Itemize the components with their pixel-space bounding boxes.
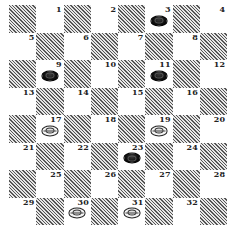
- dark-square: [9, 60, 36, 88]
- square-number: 7: [138, 33, 144, 42]
- square-number: 20: [214, 115, 225, 124]
- square-number: 17: [50, 115, 61, 124]
- dark-square: [9, 5, 36, 33]
- dark-square: [145, 143, 172, 171]
- dark-square: [36, 88, 63, 116]
- square-14[interactable]: 14: [64, 88, 91, 116]
- square-number: 21: [23, 143, 34, 152]
- dark-square: [173, 170, 200, 198]
- square-16[interactable]: 16: [173, 88, 200, 116]
- white-piece[interactable]: [41, 125, 58, 136]
- square-number: 10: [105, 60, 116, 69]
- dark-square: [173, 60, 200, 88]
- square-number: 3: [165, 5, 171, 14]
- square-number: 24: [187, 143, 198, 152]
- square-4[interactable]: 4: [200, 5, 227, 33]
- square-27[interactable]: 27: [145, 170, 172, 198]
- dark-square: [145, 88, 172, 116]
- dark-square: [200, 88, 227, 116]
- dark-square: [64, 170, 91, 198]
- dark-square: [91, 143, 118, 171]
- square-number: 22: [78, 143, 89, 152]
- square-30[interactable]: 30: [64, 198, 91, 226]
- square-number: 9: [56, 60, 62, 69]
- square-10[interactable]: 10: [91, 60, 118, 88]
- dark-square: [9, 170, 36, 198]
- square-number: 13: [23, 88, 34, 97]
- square-31[interactable]: 31: [118, 198, 145, 226]
- square-number: 27: [159, 170, 170, 179]
- square-number: 14: [78, 88, 89, 97]
- dark-square: [118, 60, 145, 88]
- square-number: 12: [214, 60, 225, 69]
- square-number: 28: [214, 170, 225, 179]
- square-9[interactable]: 9: [36, 60, 63, 88]
- dark-square: [173, 115, 200, 143]
- dark-square: [36, 143, 63, 171]
- dark-square: [91, 88, 118, 116]
- square-number: 25: [50, 170, 61, 179]
- square-32[interactable]: 32: [173, 198, 200, 226]
- square-number: 23: [132, 143, 143, 152]
- black-piece[interactable]: [150, 70, 167, 81]
- square-number: 32: [187, 198, 198, 207]
- square-12[interactable]: 12: [200, 60, 227, 88]
- square-25[interactable]: 25: [36, 170, 63, 198]
- square-number: 2: [110, 5, 116, 14]
- square-28[interactable]: 28: [200, 170, 227, 198]
- square-18[interactable]: 18: [91, 115, 118, 143]
- square-23[interactable]: 23: [118, 143, 145, 171]
- square-number: 4: [219, 5, 225, 14]
- square-number: 8: [192, 33, 198, 42]
- square-number: 26: [105, 170, 116, 179]
- dark-square: [200, 33, 227, 61]
- square-26[interactable]: 26: [91, 170, 118, 198]
- square-8[interactable]: 8: [173, 33, 200, 61]
- square-5[interactable]: 5: [9, 33, 36, 61]
- square-number: 29: [23, 198, 34, 207]
- black-piece[interactable]: [41, 70, 58, 81]
- dark-square: [64, 60, 91, 88]
- dark-square: [118, 5, 145, 33]
- dark-square: [91, 33, 118, 61]
- dark-square: [64, 5, 91, 33]
- square-20[interactable]: 20: [200, 115, 227, 143]
- square-19[interactable]: 19: [145, 115, 172, 143]
- square-22[interactable]: 22: [64, 143, 91, 171]
- square-21[interactable]: 21: [9, 143, 36, 171]
- dark-square: [118, 170, 145, 198]
- square-17[interactable]: 17: [36, 115, 63, 143]
- square-6[interactable]: 6: [64, 33, 91, 61]
- dark-square: [36, 198, 63, 226]
- dark-square: [145, 198, 172, 226]
- square-number: 15: [132, 88, 143, 97]
- square-number: 31: [132, 198, 143, 207]
- dark-square: [145, 33, 172, 61]
- square-29[interactable]: 29: [9, 198, 36, 226]
- black-piece[interactable]: [150, 15, 167, 26]
- square-number: 1: [56, 5, 62, 14]
- dark-square: [36, 33, 63, 61]
- square-13[interactable]: 13: [9, 88, 36, 116]
- square-number: 19: [159, 115, 170, 124]
- square-7[interactable]: 7: [118, 33, 145, 61]
- square-3[interactable]: 3: [145, 5, 172, 33]
- square-11[interactable]: 11: [145, 60, 172, 88]
- white-piece[interactable]: [123, 208, 140, 219]
- checkers-board: 1234567891011121314151617181920212223242…: [9, 5, 227, 225]
- dark-square: [9, 115, 36, 143]
- square-number: 6: [83, 33, 89, 42]
- square-24[interactable]: 24: [173, 143, 200, 171]
- white-piece[interactable]: [150, 125, 167, 136]
- square-number: 18: [105, 115, 116, 124]
- white-piece[interactable]: [69, 208, 86, 219]
- dark-square: [64, 115, 91, 143]
- dark-square: [200, 143, 227, 171]
- square-2[interactable]: 2: [91, 5, 118, 33]
- square-15[interactable]: 15: [118, 88, 145, 116]
- square-1[interactable]: 1: [36, 5, 63, 33]
- dark-square: [173, 5, 200, 33]
- dark-square: [91, 198, 118, 226]
- square-number: 5: [29, 33, 35, 42]
- black-piece[interactable]: [123, 153, 140, 164]
